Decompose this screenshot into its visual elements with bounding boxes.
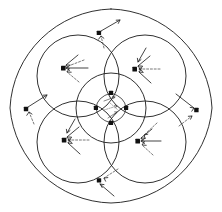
node-upper-right <box>132 67 137 72</box>
diamond-node-bottom <box>109 121 113 125</box>
node-upper-left <box>61 66 66 71</box>
diamond-node-top <box>109 91 113 95</box>
node-left-petal <box>24 107 28 111</box>
vector-field-figure: Four-lobe rosette vector field diagram <box>0 0 222 212</box>
diamond-node-right <box>124 106 128 110</box>
diamond-node-left <box>94 106 98 110</box>
node-right-petal <box>194 108 198 112</box>
node-bottom-petal <box>97 178 101 182</box>
node-top-petal <box>97 31 101 35</box>
figure-background <box>0 0 222 212</box>
node-lower-left <box>62 138 67 143</box>
node-lower-right <box>135 139 140 144</box>
diagram-canvas: Four-lobe rosette vector field diagram <box>0 0 222 212</box>
